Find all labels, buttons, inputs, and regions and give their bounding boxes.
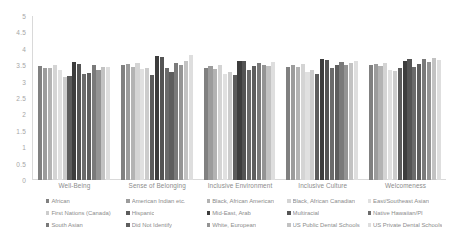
bar[interactable] bbox=[53, 65, 57, 180]
bar[interactable] bbox=[291, 65, 295, 180]
bar[interactable] bbox=[82, 74, 86, 180]
bar[interactable] bbox=[388, 70, 392, 180]
legend-item[interactable]: Native Hawaiian/PI bbox=[368, 207, 446, 219]
y-axis-tick: 4 bbox=[22, 45, 26, 52]
bar[interactable] bbox=[242, 61, 246, 180]
bar[interactable] bbox=[135, 63, 139, 180]
bar[interactable] bbox=[427, 62, 431, 180]
bar[interactable] bbox=[223, 74, 227, 180]
bar[interactable] bbox=[257, 63, 261, 180]
legend-swatch-icon bbox=[287, 211, 290, 214]
bar[interactable] bbox=[286, 67, 290, 180]
bar[interactable] bbox=[179, 65, 183, 180]
bar[interactable] bbox=[369, 65, 373, 180]
bar[interactable] bbox=[354, 61, 358, 180]
bar[interactable] bbox=[398, 68, 402, 180]
legend-item[interactable]: White, European bbox=[207, 219, 285, 231]
bar[interactable] bbox=[87, 73, 91, 180]
bar[interactable] bbox=[378, 66, 382, 180]
bar[interactable] bbox=[43, 68, 47, 180]
legend-swatch-icon bbox=[368, 223, 371, 226]
bar[interactable] bbox=[204, 68, 208, 180]
bar[interactable] bbox=[106, 67, 110, 180]
legend-label: American Indian etc. bbox=[132, 195, 186, 207]
bar[interactable] bbox=[213, 69, 217, 180]
bar[interactable] bbox=[121, 65, 125, 180]
bar[interactable] bbox=[174, 63, 178, 180]
bar[interactable] bbox=[67, 76, 71, 180]
legend-item[interactable]: Mid-East, Arab bbox=[207, 207, 285, 219]
bar[interactable] bbox=[140, 69, 144, 180]
legend-item[interactable]: South Asian bbox=[46, 219, 124, 231]
bar[interactable] bbox=[237, 61, 241, 180]
bar[interactable] bbox=[145, 68, 149, 180]
legend-item[interactable]: US Public Dental Schools bbox=[287, 219, 365, 231]
bar[interactable] bbox=[92, 65, 96, 180]
legend-label: Did Not Identify bbox=[132, 219, 172, 231]
bar[interactable] bbox=[339, 62, 343, 180]
bar[interactable] bbox=[335, 65, 339, 180]
bar[interactable] bbox=[349, 63, 353, 180]
bar[interactable] bbox=[403, 61, 407, 180]
legend-item[interactable]: African bbox=[46, 195, 124, 207]
bar[interactable] bbox=[374, 64, 378, 180]
bar[interactable] bbox=[417, 64, 421, 180]
bar[interactable] bbox=[48, 68, 52, 180]
bar[interactable] bbox=[344, 65, 348, 180]
bar[interactable] bbox=[271, 62, 275, 180]
legend-item[interactable]: First Nations (Canada) bbox=[46, 207, 124, 219]
bar[interactable] bbox=[228, 72, 232, 180]
bar[interactable] bbox=[72, 62, 76, 180]
plot-area bbox=[32, 16, 446, 180]
bar[interactable] bbox=[189, 55, 193, 180]
legend-item[interactable]: Black, African American bbox=[207, 195, 285, 207]
bar[interactable] bbox=[310, 70, 314, 180]
legend-item[interactable]: East/Southeast Asian bbox=[368, 195, 446, 207]
bar[interactable] bbox=[325, 60, 329, 180]
legend-item[interactable]: Hispanic bbox=[126, 207, 204, 219]
bar[interactable] bbox=[266, 66, 270, 180]
bar[interactable] bbox=[432, 58, 436, 180]
bar[interactable] bbox=[38, 66, 42, 180]
bar-group bbox=[33, 16, 116, 180]
bar[interactable] bbox=[150, 75, 154, 180]
legend-item[interactable]: Multiracial bbox=[287, 207, 365, 219]
bar[interactable] bbox=[208, 66, 212, 180]
bar[interactable] bbox=[233, 75, 237, 180]
bar[interactable] bbox=[407, 59, 411, 180]
bar[interactable] bbox=[296, 67, 300, 180]
bar[interactable] bbox=[101, 67, 105, 180]
bar[interactable] bbox=[77, 64, 81, 180]
legend-swatch-icon bbox=[126, 211, 129, 214]
bar[interactable] bbox=[252, 66, 256, 180]
bar[interactable] bbox=[126, 64, 130, 180]
bar[interactable] bbox=[412, 67, 416, 180]
bar[interactable] bbox=[131, 67, 135, 180]
bar[interactable] bbox=[247, 70, 251, 180]
bar[interactable] bbox=[393, 71, 397, 180]
bar[interactable] bbox=[305, 72, 309, 180]
bar[interactable] bbox=[165, 68, 169, 180]
bar[interactable] bbox=[315, 74, 319, 180]
bar[interactable] bbox=[160, 57, 164, 180]
bar[interactable] bbox=[169, 72, 173, 180]
bar[interactable] bbox=[383, 63, 387, 180]
legend-item[interactable]: Black, African Canadian bbox=[287, 195, 365, 207]
bar[interactable] bbox=[58, 70, 62, 180]
bar[interactable] bbox=[155, 56, 159, 180]
legend-item[interactable]: American Indian etc. bbox=[126, 195, 204, 207]
bar[interactable] bbox=[330, 68, 334, 180]
bar[interactable] bbox=[437, 60, 441, 180]
x-axis-category-label: Inclusive Environment bbox=[199, 182, 282, 189]
bar[interactable] bbox=[301, 64, 305, 180]
bar[interactable] bbox=[320, 59, 324, 180]
bar[interactable] bbox=[218, 65, 222, 180]
bar[interactable] bbox=[262, 65, 266, 180]
bar[interactable] bbox=[96, 70, 100, 180]
bar[interactable] bbox=[422, 59, 426, 180]
bar-group bbox=[363, 16, 446, 180]
legend-item[interactable]: Did Not Identify bbox=[126, 219, 204, 231]
bar[interactable] bbox=[63, 77, 67, 180]
legend-item[interactable]: US Private Dental Schools bbox=[368, 219, 446, 231]
bar[interactable] bbox=[184, 61, 188, 180]
